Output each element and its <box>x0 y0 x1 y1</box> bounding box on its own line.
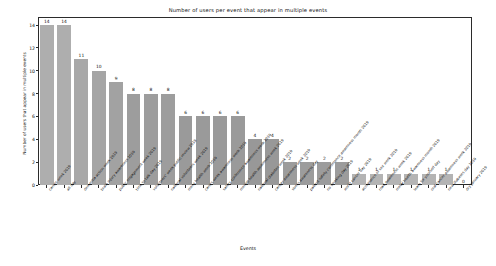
x-axis-tick-mark <box>220 185 221 188</box>
bar-value-label: 9 <box>115 76 118 81</box>
x-axis-tick-label: learn for yourself day <box>413 189 416 192</box>
bar <box>370 174 384 185</box>
bar <box>422 174 436 185</box>
bar-value-label: 14 <box>61 19 67 24</box>
x-axis-tick-mark <box>428 185 429 188</box>
x-axis-tick-label: acceptance of sex week 2019 <box>361 189 364 192</box>
x-axis-tick-label: dry january 2019 <box>465 189 468 192</box>
bar <box>404 174 418 185</box>
x-axis-tick-mark <box>376 185 377 188</box>
bar <box>300 162 314 185</box>
bar-value-label: 8 <box>149 87 152 92</box>
bar <box>213 116 227 185</box>
bar-value-label: 1 <box>410 167 413 172</box>
bar <box>109 82 123 185</box>
bar <box>439 174 453 185</box>
bar-value-label: 8 <box>167 87 170 92</box>
x-axis-tick-mark <box>116 185 117 188</box>
y-axis-tick-label: 10 <box>21 68 35 73</box>
x-axis-tick-mark <box>411 185 412 188</box>
x-axis-label: Events <box>0 246 496 251</box>
x-axis-tick-label: carers week awareness week 2019 <box>204 189 207 192</box>
y-axis-tick-label: 14 <box>21 23 35 28</box>
bar-value-label: 1 <box>427 167 430 172</box>
x-axis-tick-mark <box>307 185 308 188</box>
x-axis-tick-mark <box>393 185 394 188</box>
bar-value-label: 1 <box>375 167 378 172</box>
bar-value-label: 11 <box>79 53 85 58</box>
bar <box>387 174 401 185</box>
y-axis-label: Number of users that appear in multiple … <box>22 34 27 174</box>
bar-value-label: 8 <box>132 87 135 92</box>
x-axis-tick-label: oral cancer awareness week 2019 <box>430 189 433 192</box>
bar-series: 14141110988866664422221111110 <box>38 17 472 185</box>
chart-title: Number of users per event that appear in… <box>0 7 496 13</box>
y-axis-tick-label: 8 <box>21 91 35 96</box>
x-axis-tick-label: metal health awareness month 2019 <box>395 189 398 192</box>
x-axis-tick-label: cancer awareness week 2019 <box>274 189 277 192</box>
x-axis-tick-label: brain injury awareness 2019 <box>100 189 103 192</box>
bar <box>248 139 262 185</box>
x-axis-tick-mark <box>359 185 360 188</box>
bar <box>127 94 141 185</box>
bar <box>144 94 158 185</box>
bar-value-label: 2 <box>306 156 309 161</box>
x-axis-tick-label: world cancer day 2019 <box>343 189 346 192</box>
x-axis-tick-label: all day <box>66 189 69 192</box>
x-axis-tick-label: public engagement week 2019 <box>118 189 121 192</box>
x-axis-tick-mark <box>289 185 290 188</box>
bar-value-label: 14 <box>44 19 50 24</box>
x-axis-tick-label: mental health awareness week 2019 <box>239 189 242 192</box>
x-axis-tick-mark <box>203 185 204 188</box>
y-axis-tick-label: 6 <box>21 114 35 119</box>
bar <box>231 116 245 185</box>
x-axis-tick-mark <box>150 185 151 188</box>
x-axis-tick-label: dementia action week 2019 <box>83 189 86 192</box>
x-axis-tick-label: patient safety conference awareness mont… <box>309 189 312 192</box>
x-axis-tick-label: safety conference awareness week 2019 <box>222 189 225 192</box>
x-axis-tick-mark <box>341 185 342 188</box>
bar-value-label: 4 <box>271 133 274 138</box>
bar-value-label: 4 <box>254 133 257 138</box>
bar <box>57 25 71 185</box>
bar-value-label: 1 <box>358 167 361 172</box>
x-axis-tick-label: road awareness week 2019 <box>378 189 381 192</box>
bar-value-label: 10 <box>96 64 102 69</box>
x-axis-tick-label: stress awareness day <box>291 189 294 192</box>
x-axis-tick-mark <box>272 185 273 188</box>
bar <box>161 94 175 185</box>
y-axis-tick-label: 0 <box>21 183 35 188</box>
x-axis-tick-mark <box>64 185 65 188</box>
x-axis-tick-mark <box>255 185 256 188</box>
y-axis-tick-label: 4 <box>21 137 35 142</box>
x-axis-tick-mark <box>237 185 238 188</box>
bar-value-label: 6 <box>236 110 239 115</box>
bar-value-label: 2 <box>340 156 343 161</box>
x-axis-tick-mark <box>81 185 82 188</box>
bar-value-label: 2 <box>288 156 291 161</box>
x-axis-tick-mark <box>133 185 134 188</box>
x-axis-tick-mark <box>446 185 447 188</box>
y-axis-tick-label: 12 <box>21 45 35 50</box>
bar-value-label: 6 <box>184 110 187 115</box>
y-axis-tick-label: 2 <box>21 160 35 165</box>
x-axis-tick-mark <box>98 185 99 188</box>
bar-value-label: 6 <box>219 110 222 115</box>
x-axis-tick-label: new diabetes day 2019 <box>447 189 450 192</box>
x-axis-tick-label: mens health week 2019 <box>187 189 190 192</box>
x-axis-tick-label: time to talk day 2019 <box>135 189 138 192</box>
bar-value-label: 0 <box>462 179 465 184</box>
x-axis-tick-label: volunteers' week public review 2019 <box>152 189 155 192</box>
x-axis-tick-label: no smoking day 2019 <box>326 189 329 192</box>
bar <box>265 139 279 185</box>
bar <box>335 162 349 185</box>
x-axis-tick-label: national diabetes week 2019 <box>257 189 260 192</box>
bar <box>352 174 366 185</box>
bar <box>92 71 106 185</box>
bar-value-label: 6 <box>202 110 205 115</box>
x-axis-tick-mark <box>185 185 186 188</box>
bar-value-label: 1 <box>392 167 395 172</box>
x-axis-tick-mark <box>463 185 464 188</box>
bar-value-label: 1 <box>445 167 448 172</box>
bar-value-label: 2 <box>323 156 326 161</box>
